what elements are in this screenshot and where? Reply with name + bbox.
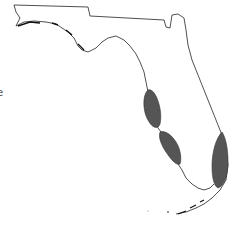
west-coast-north-region bbox=[144, 90, 161, 128]
key-dot bbox=[167, 211, 169, 213]
panhandle-coast-detail bbox=[18, 22, 84, 50]
key-dot bbox=[148, 211, 149, 212]
florida-map bbox=[0, 0, 240, 228]
east-coast-southeast-region bbox=[212, 132, 228, 188]
florida-keys bbox=[178, 200, 204, 214]
state-outline bbox=[14, 5, 228, 214]
west-coast-south-region bbox=[159, 132, 180, 165]
